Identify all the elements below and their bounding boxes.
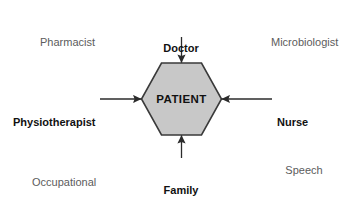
- role-label-speech-and-language-therapist: Speech and language therapist: [276, 140, 332, 202]
- role-label-physiotherapist: Physiotherapist: [13, 92, 96, 152]
- role-label-physiotherapist-line: Physiotherapist: [13, 116, 96, 128]
- role-label-pharmacist-line: Pharmacist: [40, 36, 95, 48]
- patient-label: PATIENT: [156, 93, 206, 105]
- role-label-microbiologist: Microbiologist: [271, 12, 338, 72]
- role-label-speech-and-language-therapist-line-2: and: [276, 200, 332, 202]
- role-label-family: Family: [158, 160, 204, 202]
- role-label-occupational-therapist-line-1: Occupational: [32, 176, 96, 188]
- role-label-microbiologist-line: Microbiologist: [271, 36, 338, 48]
- role-label-nurse-line: Nurse: [277, 116, 308, 128]
- diagram-canvas: PATIENT Pharmacist Microbiologist Doctor…: [0, 0, 362, 202]
- role-label-pharmacist: Pharmacist: [40, 12, 95, 72]
- role-label-family-line: Family: [158, 184, 204, 196]
- role-label-doctor-line: Doctor: [157, 42, 205, 54]
- role-label-doctor: Doctor: [157, 18, 205, 78]
- role-label-speech-and-language-therapist-line-1: Speech: [276, 164, 332, 176]
- role-label-occupational-therapist: Occupational therapist: [32, 152, 96, 202]
